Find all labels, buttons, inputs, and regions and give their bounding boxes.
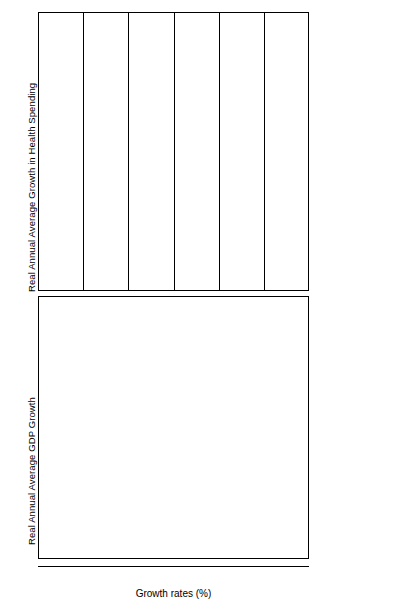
gridline <box>219 13 220 290</box>
gridline <box>174 13 175 290</box>
gridline <box>83 13 84 290</box>
chart-figure: Real Annual Average Growth in Health Spe… <box>0 0 400 605</box>
panel-title-health-spending: Real Annual Average Growth in Health Spe… <box>26 83 37 292</box>
plot-area-gdp-growth <box>38 296 309 559</box>
zero-line <box>128 13 129 290</box>
x-axis-title: Growth rates (%) <box>38 588 309 599</box>
gridline <box>264 13 265 290</box>
plot-area-health-spending <box>38 12 309 291</box>
panel-title-gdp-growth: Real Annual Average GDP Growth <box>26 397 37 545</box>
x-axis-line <box>38 566 309 567</box>
